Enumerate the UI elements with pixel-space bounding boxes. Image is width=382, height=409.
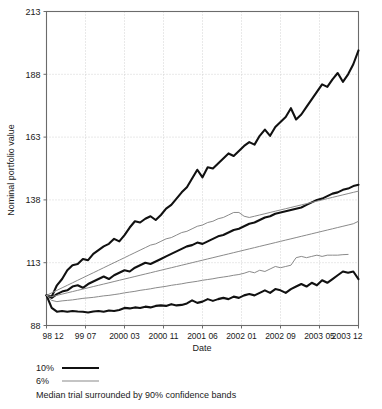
y-tick-label: 163	[25, 132, 40, 142]
y-tick-label: 113	[26, 258, 40, 268]
y-tick-label: 188	[25, 70, 40, 80]
x-tick-label: 98 12	[43, 331, 65, 341]
x-tick-label: 2000 03	[109, 331, 140, 341]
legend-label-6pct: 6%	[36, 376, 49, 386]
y-tick-label: 213	[25, 7, 40, 17]
y-tick-label: 88	[30, 321, 40, 331]
x-axis-title: Date	[192, 343, 211, 353]
chart-background	[0, 0, 382, 409]
x-tick-label: 2001 06	[187, 331, 218, 341]
nominal-portfolio-value-line-chart: 88113138163188213 98 1299 072000 032000 …	[0, 0, 382, 409]
x-tick-label: 99 07	[75, 331, 97, 341]
x-tick-label: 2003 12	[332, 331, 363, 341]
x-tick-label: 2003 05	[304, 331, 335, 341]
x-tick-label: 2000 11	[148, 331, 178, 341]
x-tick-label: 2002 09	[265, 331, 296, 341]
x-tick-label: 2002 01	[226, 331, 257, 341]
y-tick-label: 138	[25, 195, 40, 205]
y-axis-title: Nominal portfolio value	[6, 124, 16, 216]
chart-figure: 88113138163188213 98 1299 072000 032000 …	[0, 0, 382, 409]
legend-label-10pct: 10%	[36, 363, 54, 373]
legend-caption: Median trial surrounded by 90% confidenc…	[36, 390, 237, 400]
x-tick-labels: 98 1299 072000 032000 112001 062002 0120…	[43, 331, 363, 341]
